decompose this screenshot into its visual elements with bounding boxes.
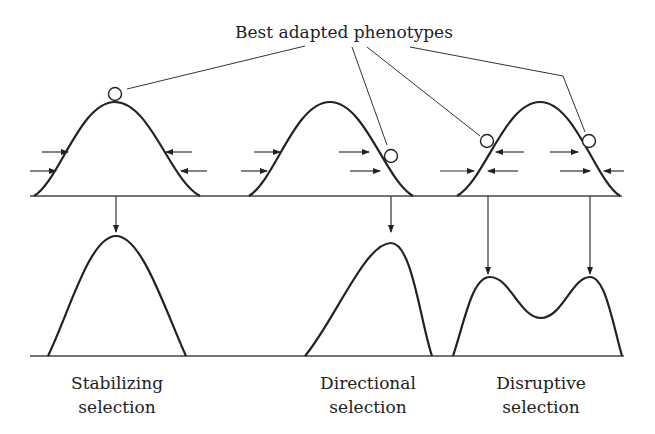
label-disruptive-line1: Disruptive <box>496 373 586 393</box>
bottom-curve-disruptive <box>453 277 622 356</box>
label-stabilizing-line2: selection <box>78 397 155 417</box>
bottom-curve-directional <box>305 243 432 356</box>
label-directional-line1: Directional <box>320 373 416 393</box>
best-phenotype-marker <box>481 135 494 148</box>
label-disruptive-line2: selection <box>502 397 579 417</box>
selection-diagram: Best adapted phenotypes Stabilizing sele… <box>0 0 655 434</box>
leader-lines <box>127 46 585 145</box>
label-stabilizing-line1: Stabilizing <box>71 373 163 393</box>
top-curve-stabilizing <box>34 102 200 196</box>
best-phenotype-marker <box>109 88 122 101</box>
top-curve-directional <box>249 102 413 196</box>
label-directional-line2: selection <box>329 397 406 417</box>
diagram-title: Best adapted phenotypes <box>235 22 453 42</box>
top-curve-disruptive <box>457 102 620 196</box>
best-phenotype-marker <box>385 150 398 163</box>
best-phenotype-marker <box>583 135 596 148</box>
bottom-curve-stabilizing <box>48 236 186 356</box>
